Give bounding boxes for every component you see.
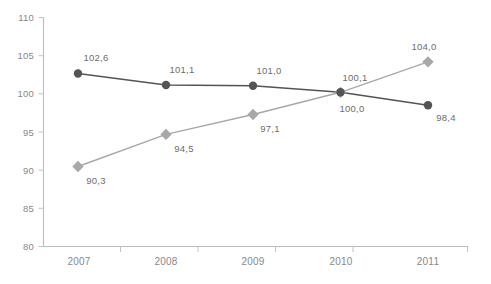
data-label-dark-2009: 101,0 — [257, 65, 282, 76]
y-axis-tick-labels: 110 105 100 95 90 85 80 — [18, 12, 34, 252]
x-axis-label-2009: 2009 — [241, 256, 264, 267]
x-axis-tick-labels: 2007 2008 2009 2010 2011 — [67, 256, 439, 267]
y-axis-label-85: 85 — [23, 203, 34, 214]
chart-canvas: 110 105 100 95 90 85 80 2007 2008 2009 2… — [0, 0, 491, 284]
data-point-dark-2009 — [249, 82, 257, 90]
y-axis-label-95: 95 — [23, 127, 34, 138]
data-point-gray-2009 — [247, 109, 258, 120]
data-point-gray-2008 — [160, 129, 171, 140]
data-label-gray-2010: 100,0 — [340, 103, 365, 114]
y-axis-label-110: 110 — [18, 12, 34, 23]
data-label-dark-2007: 102,6 — [84, 52, 109, 63]
x-axis-ticks — [121, 247, 468, 253]
x-axis-label-2010: 2010 — [329, 256, 352, 267]
data-label-gray-2011: 104,0 — [412, 41, 437, 52]
data-point-gray-2011 — [422, 56, 433, 67]
y-axis-label-100: 100 — [18, 88, 34, 99]
x-axis-label-2011: 2011 — [417, 256, 440, 267]
data-point-dark-2010 — [336, 88, 344, 96]
data-label-dark-2011: 98,4 — [436, 112, 455, 123]
data-label-gray-2008: 94,5 — [174, 143, 193, 154]
series-gray-data-labels: 90,3 94,5 97,1 100,0 104,0 — [86, 41, 436, 186]
data-point-dark-2007 — [74, 69, 82, 77]
data-label-gray-2009: 97,1 — [260, 123, 279, 134]
data-point-dark-2008 — [162, 81, 170, 89]
data-label-gray-2007: 90,3 — [86, 175, 105, 186]
x-axis-label-2008: 2008 — [154, 256, 177, 267]
data-point-dark-2011 — [424, 101, 432, 109]
x-axis-label-2007: 2007 — [67, 256, 90, 267]
series-dark-markers — [74, 69, 432, 109]
line-chart: 110 105 100 95 90 85 80 2007 2008 2009 2… — [0, 0, 491, 284]
y-axis-label-90: 90 — [23, 165, 34, 176]
y-axis-label-105: 105 — [18, 50, 34, 61]
data-label-dark-2008: 101,1 — [170, 64, 195, 75]
y-axis-label-80: 80 — [23, 241, 34, 252]
series-gray-markers — [72, 56, 433, 172]
y-axis-ticks — [39, 18, 44, 247]
data-point-gray-2007 — [72, 161, 83, 172]
data-label-dark-2010: 100,1 — [343, 72, 368, 83]
